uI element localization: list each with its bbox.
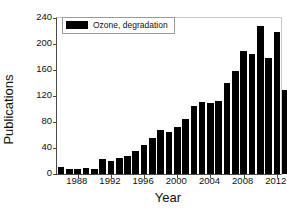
bar — [124, 156, 131, 174]
x-tick-label: 1988 — [66, 176, 87, 186]
bar — [232, 71, 239, 174]
x-tick-label: 2008 — [232, 176, 253, 186]
y-tick-mark — [53, 174, 57, 175]
y-tick-mark — [53, 18, 57, 19]
bar — [157, 130, 164, 174]
y-axis-title: Publications — [0, 0, 16, 219]
y-tick-mark — [53, 44, 57, 45]
y-tick-label: 200 — [16, 38, 52, 48]
y-tick-label: 80 — [16, 116, 52, 126]
chart-legend: Ozone, degradation — [62, 17, 175, 34]
bar — [132, 151, 139, 174]
legend-color-swatch — [66, 21, 88, 29]
bar — [282, 90, 287, 174]
y-tick-mark — [53, 122, 57, 123]
x-tick-label: 1996 — [133, 176, 154, 186]
bar — [249, 54, 256, 174]
bar — [257, 26, 264, 174]
x-tick-label: 2012 — [265, 176, 286, 186]
y-axis-tick-labels: 04080120160200240 — [16, 0, 52, 219]
bar — [224, 83, 231, 174]
y-tick-mark — [53, 148, 57, 149]
bar — [174, 127, 181, 174]
plot-area — [56, 17, 282, 175]
x-axis-title: Year — [56, 190, 280, 205]
x-tick-label: 1992 — [99, 176, 120, 186]
bar — [66, 169, 73, 174]
bar — [91, 169, 98, 174]
legend-label: Ozone, degradation — [93, 21, 168, 30]
bar — [141, 145, 148, 174]
publications-bar-chart: Publications 04080120160200240 198819921… — [0, 0, 287, 219]
y-tick-label: 120 — [16, 90, 52, 100]
y-tick-label: 0 — [16, 168, 52, 178]
bar — [274, 32, 281, 174]
x-tick-label: 2004 — [199, 176, 220, 186]
bar — [149, 138, 156, 174]
y-tick-label: 240 — [16, 12, 52, 22]
bar — [207, 103, 214, 174]
bar — [116, 158, 123, 174]
y-tick-mark — [53, 70, 57, 71]
bar — [240, 51, 247, 174]
bar — [99, 159, 106, 174]
x-axis-tick-labels: 1988199219962000200420082012 — [56, 176, 280, 190]
y-tick-mark — [53, 96, 57, 97]
bar — [58, 167, 65, 174]
bar — [199, 102, 206, 174]
bar — [215, 101, 222, 174]
x-tick-label: 2000 — [166, 176, 187, 186]
bar — [191, 106, 198, 174]
bar — [182, 119, 189, 174]
bar — [265, 58, 272, 174]
y-tick-label: 40 — [16, 142, 52, 152]
bar — [108, 161, 115, 174]
y-tick-label: 160 — [16, 64, 52, 74]
bar — [166, 132, 173, 174]
bar — [83, 168, 90, 175]
bar-series — [57, 18, 281, 174]
